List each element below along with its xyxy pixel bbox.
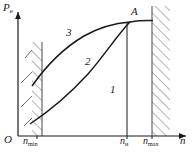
curve-label-1: 1 — [110, 84, 116, 95]
curve-label-3: 3 — [66, 27, 72, 38]
curve-3-path — [32, 22, 130, 86]
hatch-band-left — [21, 42, 42, 136]
curve-top-segment — [130, 21, 153, 22]
tick-label-n-min: nmin — [23, 136, 38, 146]
diagram-canvas — [0, 0, 195, 154]
tick-label-n-max: nmax — [143, 136, 159, 146]
point-a-label: A — [131, 6, 138, 17]
curve-2-path — [30, 22, 130, 124]
tick-label-n-nominal: nн — [120, 136, 128, 146]
curve-label-2: 2 — [85, 56, 91, 67]
x-axis-label: n — [180, 135, 186, 146]
origin-label: O — [4, 134, 12, 145]
engine-characteristic-diagram: Pe n O nmin nн nmax 1 2 3 A — [0, 0, 195, 154]
hatch-band-right — [152, 6, 170, 136]
y-axis-label: Pe — [3, 2, 13, 13]
